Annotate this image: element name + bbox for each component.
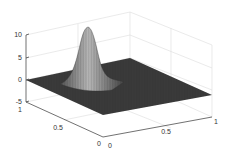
surface-plot-figure: 10 5 0 -5 1 0.5 0 0 0.5 1 xyxy=(0,0,227,156)
x-tick-0.5: 0.5 xyxy=(161,128,171,135)
surface-plot-svg: 10 5 0 -5 1 0.5 0 0 0.5 1 xyxy=(0,0,227,156)
z-tick-0: 0 xyxy=(18,76,22,83)
x-axis-labels: 0 0.5 1 xyxy=(108,118,218,149)
z-tick-neg5: -5 xyxy=(16,98,22,105)
y-axis-labels: 1 0.5 0 xyxy=(18,106,101,147)
z-tick-5: 5 xyxy=(18,54,22,61)
x-tick-0: 0 xyxy=(108,142,112,149)
y-tick-0.5: 0.5 xyxy=(53,124,63,131)
y-tick-1: 1 xyxy=(18,106,22,113)
y-tick-0: 0 xyxy=(97,140,101,147)
z-tick-10: 10 xyxy=(14,31,22,38)
z-axis-labels: 10 5 0 -5 xyxy=(14,31,22,105)
x-tick-1: 1 xyxy=(214,118,218,125)
